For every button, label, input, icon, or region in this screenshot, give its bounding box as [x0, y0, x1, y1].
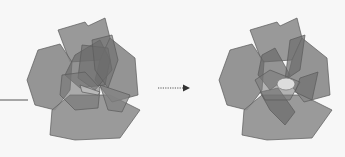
flower-center — [277, 78, 295, 90]
flower-after — [219, 18, 332, 140]
arrow-head-icon — [183, 85, 190, 92]
flower-before — [27, 18, 140, 140]
diagram-canvas — [0, 0, 345, 157]
dotted-arrow — [158, 85, 190, 92]
